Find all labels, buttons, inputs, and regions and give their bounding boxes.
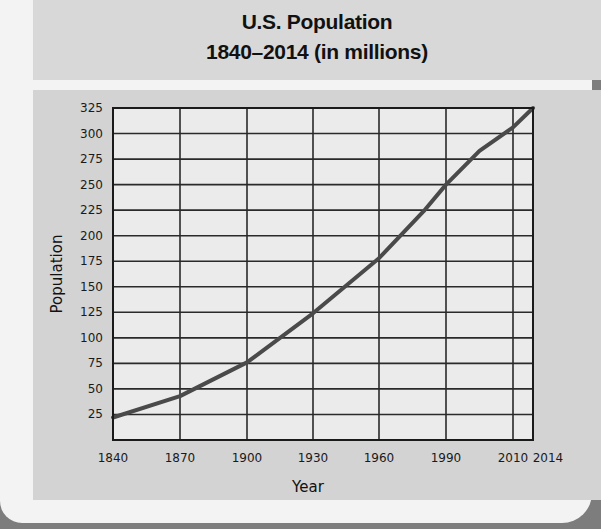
- x-tick-label: 1960: [364, 451, 395, 465]
- y-tick-label: 250: [80, 178, 103, 192]
- x-tick-label: 1930: [298, 451, 329, 465]
- x-axis-label: Year: [291, 478, 325, 496]
- x-tick-label: 2010: [498, 451, 529, 465]
- y-tick-label: 325: [80, 101, 103, 115]
- y-axis-label: Population: [48, 235, 66, 314]
- y-tick-label: 125: [80, 305, 103, 319]
- y-tick-label: 275: [80, 152, 103, 166]
- line-chart: 255075100125150175200225250275300325 184…: [0, 0, 601, 529]
- x-tick-label: 1870: [165, 451, 196, 465]
- y-tick-label: 25: [88, 407, 103, 421]
- x-tick-label: 1900: [232, 451, 263, 465]
- y-tick-label: 100: [80, 331, 103, 345]
- y-axis-ticks: 255075100125150175200225250275300325: [80, 101, 103, 421]
- y-tick-label: 50: [88, 382, 103, 396]
- y-tick-label: 175: [80, 254, 103, 268]
- x-tick-label: 2014: [533, 451, 564, 465]
- x-axis-ticks: 18401870190019301960199020102014: [98, 451, 564, 465]
- y-tick-label: 75: [88, 356, 103, 370]
- x-tick-label: 1840: [98, 451, 129, 465]
- y-tick-label: 150: [80, 280, 103, 294]
- y-tick-label: 225: [80, 203, 103, 217]
- y-tick-label: 200: [80, 229, 103, 243]
- x-tick-label: 1990: [431, 451, 462, 465]
- y-tick-label: 300: [80, 127, 103, 141]
